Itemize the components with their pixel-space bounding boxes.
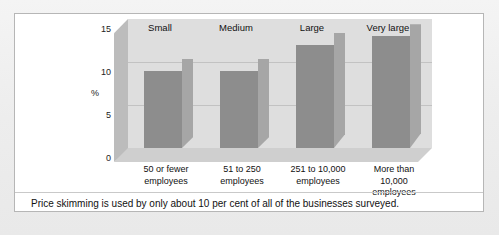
bar-front-face [220,71,258,148]
bar-1[interactable] [144,19,182,148]
plot-side-wall [114,19,128,162]
bars-layer [128,19,432,162]
bar-side-face [258,59,269,148]
bar-4[interactable] [372,19,410,148]
caption-divider [15,192,483,193]
bar-chart: 151050 % SmallMediumLargeVery large 50 o… [15,14,485,174]
bar-side-face [182,59,193,148]
y-axis-tick-15: 15 [83,25,111,34]
bar-side-face [334,33,345,148]
figure-caption: Price skimming is used by only about 10 … [31,197,471,210]
x-axis-label-line: 10,000 [348,176,440,188]
bar-side-face [410,24,421,148]
bar-front-face [372,36,410,148]
x-axis-label-4: More than10,000employees [348,164,440,199]
screenshot-root: 151050 % SmallMediumLargeVery large 50 o… [0,0,499,235]
bar-2[interactable] [220,19,258,148]
bar-front-face [296,45,334,148]
y-axis-tick-5: 5 [83,111,111,120]
x-axis-label-line: More than [348,164,440,176]
y-axis-tick-10: 10 [83,68,111,77]
y-axis-label: % [91,88,99,98]
bar-front-face [144,71,182,148]
y-axis-tick-0: 0 [83,154,111,163]
bar-3[interactable] [296,19,334,148]
figure-container: 151050 % SmallMediumLargeVery large 50 o… [14,13,484,212]
